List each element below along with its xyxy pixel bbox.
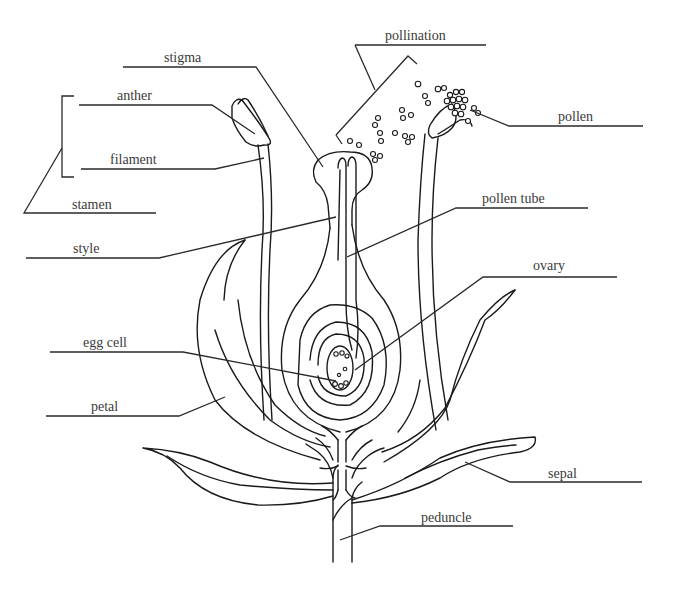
label-ovary: ovary <box>533 259 565 273</box>
pollen-tube-leader <box>347 208 588 257</box>
label-pollen-tube: pollen tube <box>482 192 545 206</box>
flower-drawing <box>0 0 678 589</box>
label-peduncle: peduncle <box>421 511 472 525</box>
label-stamen: stamen <box>72 198 112 212</box>
label-sepal: sepal <box>548 467 577 481</box>
left-stamen-shape <box>232 99 272 420</box>
label-style: style <box>73 242 99 256</box>
label-petal: petal <box>91 400 118 414</box>
sepal-shapes <box>143 437 535 505</box>
pollen-leader <box>470 110 643 126</box>
label-pollination: pollination <box>385 29 446 43</box>
label-anther: anther <box>117 89 152 103</box>
peduncle-leader <box>340 526 513 540</box>
egg-cell-leader <box>50 352 336 381</box>
pollen-grains <box>348 81 481 162</box>
flower-diagram: stigma pollination anther pollen filamen… <box>0 0 678 589</box>
receptacle-shape <box>306 426 384 500</box>
label-filament: filament <box>110 153 157 167</box>
ovary-leader <box>355 277 617 370</box>
label-pollen: pollen <box>558 110 593 124</box>
filament-leader <box>81 158 264 169</box>
label-egg-cell: egg cell <box>83 336 127 350</box>
pistil-shape <box>281 152 400 432</box>
anther-leader <box>79 105 255 134</box>
petal-leader <box>46 397 225 416</box>
label-stigma: stigma <box>164 51 201 65</box>
right-stamen-shape <box>418 104 472 430</box>
